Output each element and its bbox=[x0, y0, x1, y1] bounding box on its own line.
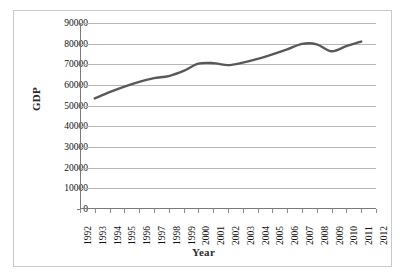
x-axis-title: Year bbox=[14, 246, 393, 258]
y-tick-mark bbox=[77, 85, 81, 86]
x-tick-label: 1998 bbox=[173, 226, 182, 245]
gdp-line-series bbox=[80, 23, 376, 209]
x-tick-label: 2007 bbox=[306, 226, 315, 245]
x-tick-label: 2006 bbox=[291, 226, 300, 245]
x-tick-label: 1992 bbox=[84, 226, 93, 245]
y-tick-mark bbox=[77, 23, 81, 24]
x-tick-label: 2004 bbox=[262, 226, 271, 245]
x-tick-label: 1994 bbox=[114, 226, 123, 245]
x-tick-label: 2008 bbox=[321, 226, 330, 245]
x-tick-label: 2005 bbox=[276, 226, 285, 245]
x-tick-label: 2009 bbox=[336, 226, 345, 245]
x-tick-label: 1995 bbox=[128, 226, 137, 245]
x-tick-label: 2012 bbox=[380, 226, 389, 245]
x-tick-label: 2011 bbox=[365, 226, 374, 245]
y-tick-mark bbox=[77, 126, 81, 127]
y-tick-mark bbox=[77, 44, 81, 45]
x-tick-label: 1999 bbox=[188, 226, 197, 245]
x-tick-label: 1993 bbox=[99, 226, 108, 245]
plot-area bbox=[80, 23, 376, 209]
y-axis-title: GDP bbox=[30, 69, 42, 129]
x-tick-mark bbox=[376, 209, 377, 213]
x-tick-label: 2002 bbox=[232, 226, 241, 245]
gdp-line-path bbox=[95, 42, 361, 99]
x-tick-label: 2003 bbox=[247, 226, 256, 245]
y-tick-mark bbox=[77, 64, 81, 65]
x-tick-label: 2010 bbox=[350, 226, 359, 245]
x-tick-label: 2001 bbox=[217, 226, 226, 245]
y-tick-mark bbox=[77, 188, 81, 189]
chart-figure: GDP 900008000070000600005000040000300002… bbox=[13, 10, 392, 267]
x-tick-label: 1996 bbox=[143, 226, 152, 245]
x-tick-label: 2000 bbox=[202, 226, 211, 245]
y-tick-mark bbox=[77, 147, 81, 148]
y-tick-mark bbox=[77, 168, 81, 169]
x-tick-label: 1997 bbox=[158, 226, 167, 245]
y-tick-mark bbox=[77, 106, 81, 107]
